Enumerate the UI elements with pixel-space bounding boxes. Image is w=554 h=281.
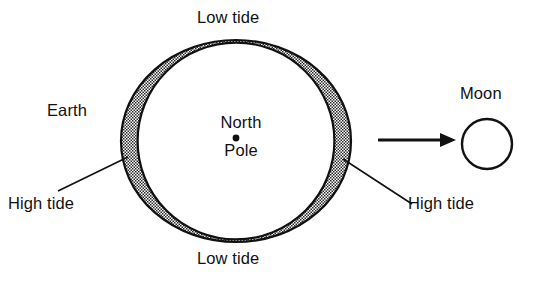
label-north-pole-pole: Pole xyxy=(208,141,274,159)
diagram-canvas xyxy=(0,0,554,281)
label-moon: Moon xyxy=(460,84,502,102)
tide-diagram: Low tide Low tide Earth High tide High t… xyxy=(0,0,554,281)
label-high-tide-left: High tide xyxy=(8,194,74,212)
label-north-pole-north: North xyxy=(208,113,274,131)
label-earth: Earth xyxy=(47,101,87,119)
label-low-tide-top: Low tide xyxy=(197,8,259,26)
label-low-tide-bottom: Low tide xyxy=(197,249,259,267)
label-high-tide-right: High tide xyxy=(408,194,474,212)
moon-circle xyxy=(462,119,512,169)
